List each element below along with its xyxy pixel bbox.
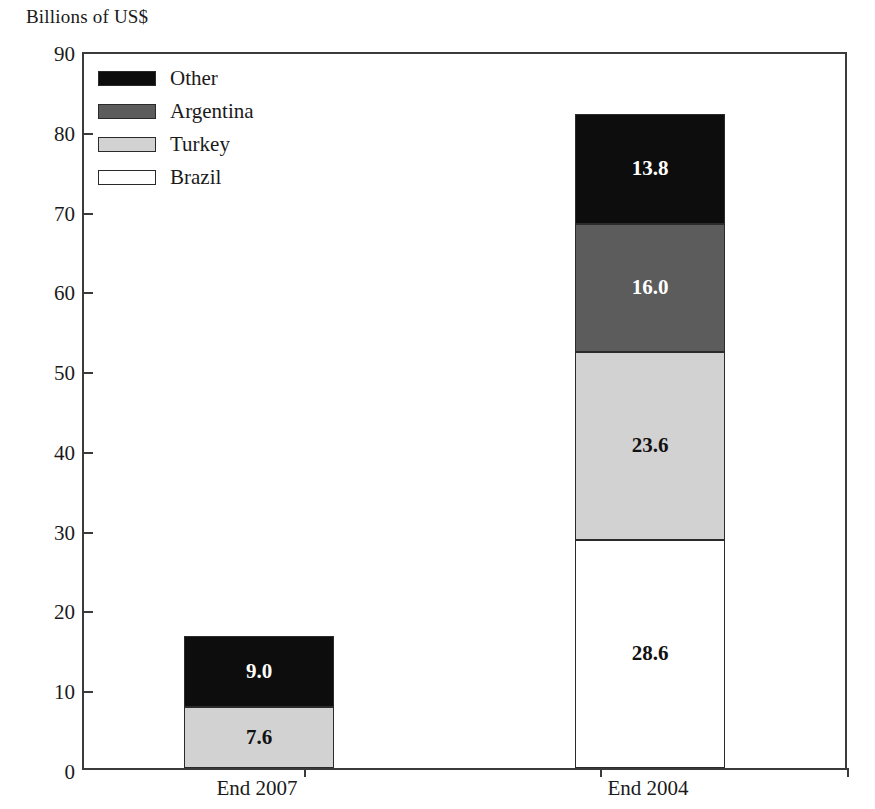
bar-segment-turkey: 23.6 — [575, 352, 725, 540]
legend-swatch-icon — [98, 104, 156, 119]
y-axis-tick-label: 50 — [54, 363, 75, 384]
bar-group: 7.69.0 — [184, 50, 334, 768]
bar-segment-other: 13.8 — [575, 114, 725, 224]
legend-swatch-icon — [98, 170, 156, 185]
y-axis-tick-mark — [84, 292, 93, 294]
bar-value-label: 23.6 — [632, 435, 669, 456]
y-axis-tick-label: 70 — [54, 203, 75, 224]
plot-area: 9080706050403020100 OtherArgentinaTurkey… — [82, 52, 847, 770]
bar-segment-turkey: 7.6 — [184, 707, 334, 768]
bar-value-label: 7.6 — [246, 727, 272, 748]
y-axis-tick-mark — [84, 452, 93, 454]
bar-value-label: 16.0 — [632, 277, 669, 298]
y-axis-tick-mark — [84, 372, 93, 374]
bar-segment-argentina: 16.0 — [575, 224, 725, 352]
legend-swatch-icon — [98, 71, 156, 86]
y-axis-tick-mark — [84, 133, 93, 135]
x-axis-category-label: End 2007 — [167, 776, 347, 801]
y-axis-tick-label: 80 — [54, 123, 75, 144]
y-axis-tick-mark — [84, 532, 93, 534]
y-axis-tick-label: 60 — [54, 283, 75, 304]
y-axis-tick-mark — [84, 691, 93, 693]
bar-value-label: 28.6 — [632, 643, 669, 664]
bar-segment-other: 9.0 — [184, 636, 334, 708]
y-axis-tick-label: 90 — [54, 44, 75, 65]
bar-value-label: 9.0 — [246, 661, 272, 682]
chart-title: Billions of US$ — [26, 6, 148, 28]
y-axis-tick-label: 40 — [54, 442, 75, 463]
y-axis-tick-label: 0 — [65, 762, 76, 783]
y-axis-tick-mark — [84, 213, 93, 215]
bar-segment-brazil: 28.6 — [575, 540, 725, 768]
y-axis-tick-mark — [84, 611, 93, 613]
y-axis-tick-label: 30 — [54, 522, 75, 543]
legend-swatch-icon — [98, 137, 156, 152]
bar-value-label: 13.8 — [632, 158, 669, 179]
y-axis-tick-label: 10 — [54, 682, 75, 703]
x-axis-category-label: End 2004 — [558, 776, 738, 801]
y-axis-tick-label: 20 — [54, 602, 75, 623]
x-axis-tick-mark — [847, 768, 849, 777]
bar-group: 28.623.616.013.8 — [575, 50, 725, 768]
